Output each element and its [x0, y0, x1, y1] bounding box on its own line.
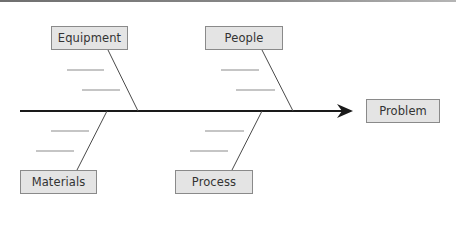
- category-label-equipment: Equipment: [58, 31, 121, 45]
- category-label-process: Process: [192, 175, 236, 189]
- category-box-people: People: [205, 26, 283, 50]
- effect-box-problem: Problem: [366, 99, 440, 123]
- category-label-people: People: [225, 31, 264, 45]
- category-box-process: Process: [175, 170, 253, 194]
- category-box-equipment: Equipment: [51, 26, 128, 50]
- category-box-materials: Materials: [20, 170, 97, 194]
- bone-materials: [77, 111, 107, 170]
- effect-label: Problem: [379, 104, 427, 118]
- bone-equipment: [108, 50, 138, 111]
- bone-people: [262, 50, 293, 111]
- category-label-materials: Materials: [32, 175, 86, 189]
- bone-process: [232, 111, 262, 170]
